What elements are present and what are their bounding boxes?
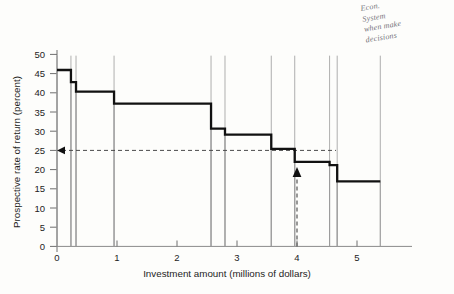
x-tick-label: 5 [354, 252, 359, 263]
investment-demand-chart: Investment amount (millions of dollars) … [0, 0, 454, 294]
y-tick-label: 15 [34, 183, 45, 194]
x-axis-title: Investment amount (millions of dollars) [143, 268, 311, 279]
y-axis-ticks [50, 54, 57, 246]
y-axis-title: Prospective rate of return (percent) [11, 76, 22, 228]
y-tick-label: 10 [34, 203, 45, 214]
y-tick-label: 5 [40, 222, 45, 233]
bar-divider-lines [57, 56, 380, 247]
margin-note: Econ. System when make decisions [360, 0, 404, 46]
up-arrow-head [293, 167, 302, 177]
y-tick-label: 20 [34, 164, 45, 175]
y-axis-tick-labels: 50 45 40 35 30 25 20 15 10 5 0 [34, 49, 45, 252]
x-tick-label: 1 [114, 252, 119, 263]
x-tick-label: 4 [294, 252, 299, 263]
y-tick-label: 35 [34, 107, 45, 118]
y-axis: 50 45 40 35 30 25 20 15 10 5 0 [34, 49, 57, 252]
investment-demand-step-curve [57, 70, 380, 181]
y-tick-label: 30 [34, 126, 45, 137]
chart-svg: Investment amount (millions of dollars) … [0, 0, 454, 294]
investment-amount-reference-line [293, 167, 302, 246]
x-tick-label: 2 [174, 252, 179, 263]
y-tick-label: 50 [34, 49, 45, 60]
y-tick-label: 25 [34, 145, 45, 156]
y-tick-label: 40 [34, 87, 45, 98]
x-tick-label: 3 [234, 252, 239, 263]
x-tick-label: 0 [54, 252, 59, 263]
y-tick-label: 45 [34, 68, 45, 79]
left-arrow-head [57, 147, 65, 155]
x-axis-tick-labels: 0 1 2 3 4 5 [54, 252, 359, 263]
y-tick-label: 0 [40, 241, 45, 252]
x-axis: 0 1 2 3 4 5 [54, 241, 412, 264]
